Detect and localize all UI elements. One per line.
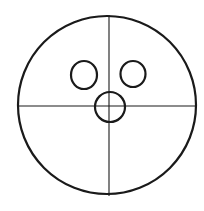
outer-circle [18, 16, 196, 194]
diagram-canvas [0, 0, 204, 211]
left-small-circle [71, 61, 97, 89]
quadrant-face-diagram [0, 0, 204, 211]
right-small-circle [121, 61, 146, 87]
center-small-circle [95, 92, 125, 122]
